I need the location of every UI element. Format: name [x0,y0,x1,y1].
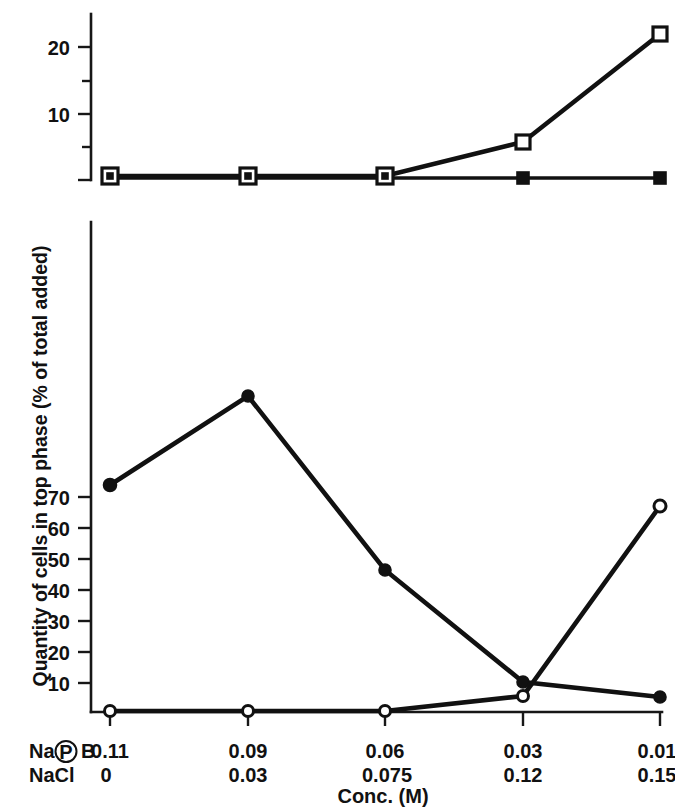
marker-filled-circle-2 [242,390,254,402]
open-circle-series-line [110,506,660,711]
xrow2-value-5: 0.15 [638,764,675,786]
lower-ytick-label-50: 50 [48,549,70,571]
chart-canvas: 20 10 [0,0,675,807]
xrow1-header-na: Na [29,740,55,762]
marker-open-circle-5 [654,500,666,512]
xrow2-header-nacl: NaCl [29,764,75,786]
marker-filled-circle-4 [517,676,529,688]
y-axis-title-group: Quantity of cells in top phase (% of tot… [29,246,51,687]
xrow1-value-2: 0.09 [229,740,268,762]
lower-ytick-label-30: 30 [48,611,70,633]
marker-open-square-3-core [382,173,388,179]
marker-open-circle-2 [243,706,254,717]
marker-open-square-2-core [245,173,251,179]
marker-filled-square-5 [654,172,666,184]
xrow2-value-1: 0 [100,764,111,786]
xrow1-value-1: 0.11 [91,740,129,762]
marker-open-square-4 [516,135,530,149]
xrow1-value-3: 0.06 [366,740,405,762]
circled-p-letter: P [59,741,72,763]
figure-container: 20 10 [0,0,675,807]
x-axis-label-rows: Na P B 0.11 0.09 0.06 0.03 0.01 NaCl 0 0… [29,740,675,807]
upper-panel-ticks [78,47,91,180]
marker-open-circle-3 [380,706,391,717]
open-circle-markers [105,500,667,717]
lower-ytick-label-20: 20 [48,642,70,664]
marker-filled-square-4 [517,172,529,184]
marker-open-circle-4 [518,691,529,702]
marker-open-square-1-core [107,173,113,179]
xrow2-value-2: 0.03 [229,764,268,786]
open-square-series-line [110,34,660,176]
xrow2-value-3: 0.075 [362,764,412,786]
filled-circle-series-line [110,396,660,697]
y-axis-title: Quantity of cells in top phase (% of tot… [29,246,51,687]
marker-open-circle-1 [105,706,116,717]
upper-ytick-label-10: 10 [48,104,70,126]
lower-ytick-label-60: 60 [48,518,70,540]
upper-ytick-label-20: 20 [48,37,70,59]
marker-filled-circle-5 [654,691,666,703]
open-square-markers [102,27,667,184]
x-axis-title: Conc. (M) [337,785,428,807]
lower-ytick-label-40: 40 [48,580,70,602]
xrow1-value-5: 0.01 [638,740,675,762]
upper-panel: 20 10 [48,14,667,184]
lower-ytick-label-10: 10 [48,673,70,695]
marker-filled-circle-1 [104,479,117,492]
lower-panel-y-ticks [78,497,91,683]
xrow1-value-4: 0.03 [504,740,543,762]
xrow2-value-4: 0.12 [504,764,543,786]
lower-panel: 70 60 50 40 30 20 10 [48,222,666,726]
marker-open-square-5 [653,27,667,41]
marker-filled-circle-3 [379,564,391,576]
lower-ytick-label-70: 70 [48,487,70,509]
